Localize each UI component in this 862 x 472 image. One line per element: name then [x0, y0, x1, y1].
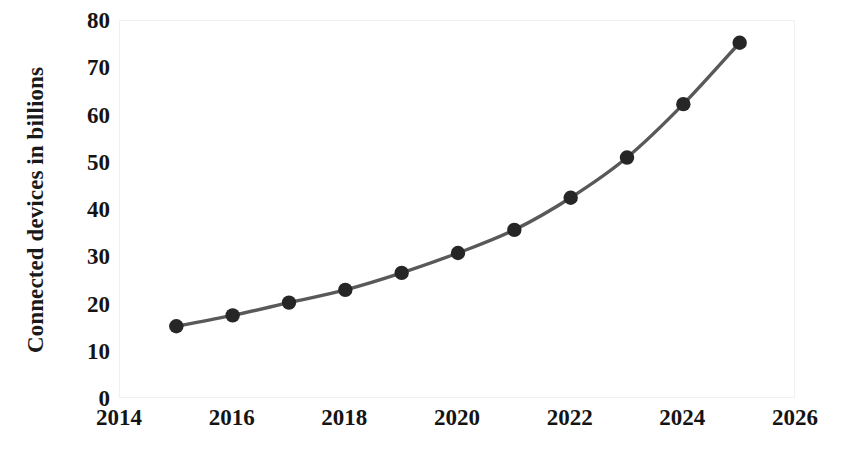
data-point-marker: 2016: 17.7	[225, 308, 239, 322]
data-point-marker: 2015: 15.4	[169, 319, 183, 333]
x-axis-tick-label: 2024	[637, 406, 727, 429]
x-axis-tick-label: 2016	[187, 406, 277, 429]
data-point-marker: 2025: 75.4	[732, 36, 746, 50]
data-point-marker: 2019: 26.7	[394, 266, 408, 280]
data-point-marker: 2020: 30.9	[451, 246, 465, 260]
data-point-marker: 2023: 51.1	[620, 150, 634, 164]
x-axis-tick-label: 2026	[750, 406, 840, 429]
x-axis-tick-label: 2018	[299, 406, 389, 429]
data-point-marker: 2018: 23.1	[338, 283, 352, 297]
x-axis-tick-label: 2020	[412, 406, 502, 429]
plot-area: 2015: 15.42016: 17.72017: 20.42018: 23.1…	[119, 20, 795, 398]
line-series-svg: 2015: 15.42016: 17.72017: 20.42018: 23.1…	[120, 21, 796, 399]
series-line	[176, 43, 739, 327]
data-point-marker: 2017: 20.4	[282, 295, 296, 309]
data-point-marker: 2022: 42.6	[563, 191, 577, 205]
data-point-marker: 2021: 35.8	[507, 223, 521, 237]
data-point-marker: 2024: 62.4	[676, 97, 690, 111]
chart-container: Connected devices in billions 0102030405…	[0, 0, 862, 472]
x-axis-tick-label: 2014	[74, 406, 164, 429]
x-axis-tick-label: 2022	[525, 406, 615, 429]
